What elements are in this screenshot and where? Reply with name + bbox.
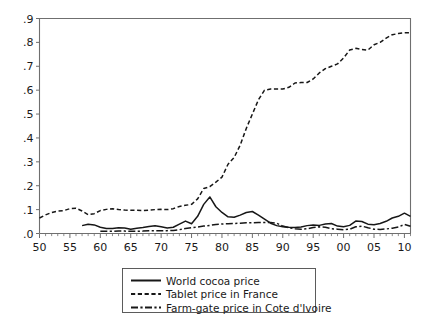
y-axis-ticks: .0.1.2.3.4.5.6.7.8.9	[23, 13, 40, 241]
plot-frame	[40, 18, 412, 234]
x-tick-label: 75	[185, 241, 199, 254]
y-tick-label: .2	[23, 180, 34, 193]
chart-canvas: .0.1.2.3.4.5.6.7.8.9 5055606570758085909…	[0, 0, 426, 321]
x-tick-label: 10	[397, 241, 411, 254]
x-tick-label: 65	[124, 241, 138, 254]
x-tick-label: 00	[337, 241, 351, 254]
y-tick-label: .7	[23, 60, 34, 73]
y-tick-label: .9	[23, 13, 34, 26]
y-tick-label: .4	[23, 132, 34, 145]
x-tick-label: 70	[154, 241, 168, 254]
x-tick-label: 85	[245, 241, 259, 254]
x-tick-label: 55	[63, 241, 77, 254]
legend-label-1: Tablet price in France	[165, 288, 278, 300]
cocoa-price-chart: .0.1.2.3.4.5.6.7.8.9 5055606570758085909…	[0, 0, 426, 321]
x-tick-label: 05	[367, 241, 381, 254]
y-tick-label: .3	[23, 156, 34, 169]
x-tick-label: 60	[93, 241, 107, 254]
legend: World cocoa priceTablet price in FranceF…	[123, 269, 332, 314]
y-tick-label: .1	[23, 204, 34, 217]
x-tick-label: 95	[306, 241, 320, 254]
x-tick-label: 80	[215, 241, 229, 254]
series-line-1	[40, 33, 411, 218]
y-tick-label: .8	[23, 36, 34, 49]
x-tick-label: 90	[276, 241, 290, 254]
legend-label-0: World cocoa price	[166, 275, 260, 287]
x-tick-label: 50	[33, 241, 47, 254]
y-tick-label: .0	[23, 228, 34, 241]
series-group	[40, 33, 411, 232]
x-axis-ticks: 50556065707580859095000510	[33, 234, 412, 254]
legend-label-2: Farm-gate price in Cote d'Ivoire	[166, 302, 331, 314]
y-tick-label: .6	[23, 84, 34, 97]
y-tick-label: .5	[23, 108, 34, 121]
series-line-0	[82, 197, 410, 229]
